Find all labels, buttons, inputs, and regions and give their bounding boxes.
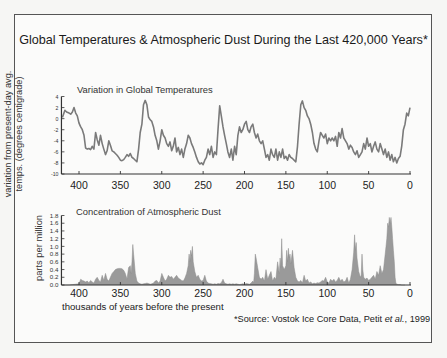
y-tick-label: -10	[51, 171, 59, 177]
x-tick-label: 150	[277, 179, 295, 191]
x-tick-label: 200	[236, 179, 254, 191]
y-tick-label: 1.2	[50, 235, 59, 242]
temperature-chart: 420-2-4-6-8-10400350300250200150100500	[51, 94, 413, 191]
x-tick-label: 150	[277, 287, 295, 299]
temperature-line	[62, 100, 410, 164]
y-tick-label: 0.8	[50, 250, 59, 257]
x-tick-label: 200	[236, 287, 254, 299]
y-tick-label: -8	[54, 160, 59, 166]
x-tick-label: 300	[153, 287, 171, 299]
x-tick-label: 250	[194, 179, 212, 191]
y-tick-label: 0.4	[50, 266, 59, 273]
y-tick-label: 1.4	[50, 227, 59, 234]
y-tick-label: 4	[56, 94, 59, 100]
y-tick-label: -4	[54, 138, 59, 144]
x-tick-label: 50	[363, 179, 375, 191]
x-tick-label: 0	[407, 287, 413, 299]
y-tick-label: 1.0	[50, 243, 59, 250]
dust-chart: 1.81.61.41.21.00.80.60.40.20.04003503002…	[50, 212, 413, 299]
x-tick-label: 400	[70, 287, 88, 299]
y-tick-label: -2	[54, 127, 59, 133]
x-tick-label: 250	[194, 287, 212, 299]
y-tick-label: -6	[54, 149, 59, 155]
x-tick-label: 50	[363, 287, 375, 299]
y-tick-label: 1.8	[50, 212, 59, 219]
y-tick-label: 0.6	[50, 258, 59, 265]
x-tick-label: 100	[318, 287, 336, 299]
x-tick-label: 400	[70, 179, 88, 191]
y-tick-label: 2	[56, 105, 59, 111]
x-tick-label: 350	[112, 179, 130, 191]
x-tick-label: 0	[407, 179, 413, 191]
chart-canvas: 420-2-4-6-8-10400350300250200150100500 1…	[0, 0, 447, 358]
y-tick-label: 0.0	[50, 281, 59, 288]
y-tick-label: 1.6	[50, 219, 59, 226]
y-tick-label: 0.2	[50, 273, 59, 280]
y-tick-label: 0	[56, 116, 59, 122]
x-tick-label: 100	[318, 179, 336, 191]
dust-area	[62, 217, 405, 285]
x-tick-label: 350	[112, 287, 130, 299]
x-tick-label: 300	[153, 179, 171, 191]
